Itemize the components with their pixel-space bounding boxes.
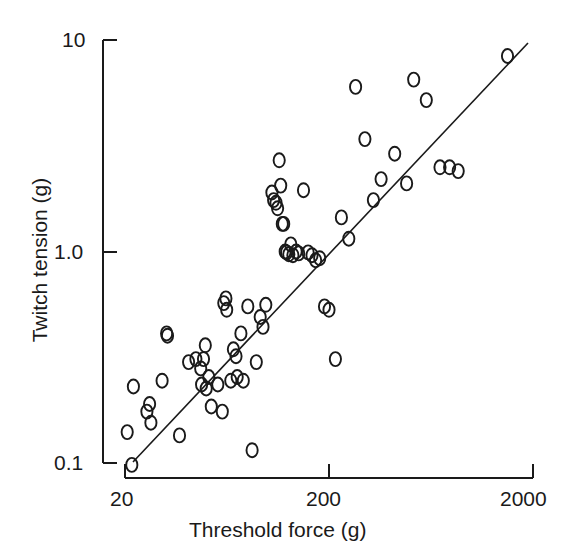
data-point (336, 210, 347, 224)
data-point (183, 355, 194, 369)
data-point (126, 458, 137, 472)
data-point (368, 193, 379, 207)
data-point (157, 374, 168, 388)
data-point (242, 299, 253, 313)
data-point (206, 400, 217, 414)
x-axis-tick-label-20: 20 (110, 487, 133, 511)
data-point (260, 298, 271, 312)
x-axis-tick-label-200: 200 (306, 487, 341, 511)
data-point (247, 443, 258, 457)
y-axis-tick-label-1: 1.0 (54, 240, 83, 264)
data-point (421, 93, 432, 107)
y-axis-tick-label-0.1: 0.1 (54, 451, 83, 475)
data-point (128, 380, 139, 394)
data-point (200, 338, 211, 352)
data-point (330, 352, 341, 366)
data-point (122, 425, 133, 439)
data-point (359, 132, 370, 146)
data-point (408, 73, 419, 87)
data-point-group (122, 49, 513, 472)
data-point (275, 179, 286, 193)
data-point (174, 428, 185, 442)
data-point (376, 172, 387, 186)
data-point (298, 183, 309, 197)
x-axis-title: Threshold force (g) (189, 518, 366, 542)
data-point (350, 80, 361, 94)
data-point (502, 49, 513, 63)
data-point (251, 355, 262, 369)
data-point (274, 153, 285, 167)
data-point (389, 147, 400, 161)
data-point (217, 405, 228, 419)
y-axis-title: Twitch tension (g) (28, 150, 52, 370)
plot-canvas (0, 0, 577, 559)
x-axis-tick-label-2000: 2000 (500, 487, 547, 511)
data-point (235, 326, 246, 340)
scatter-plot-figure: 10 1.0 0.1 20 200 2000 Threshold force (… (0, 0, 577, 559)
regression-line (133, 43, 528, 462)
data-point (198, 352, 209, 366)
y-axis-tick-label-10: 10 (62, 28, 85, 52)
data-point (212, 378, 223, 392)
data-point (401, 176, 412, 190)
